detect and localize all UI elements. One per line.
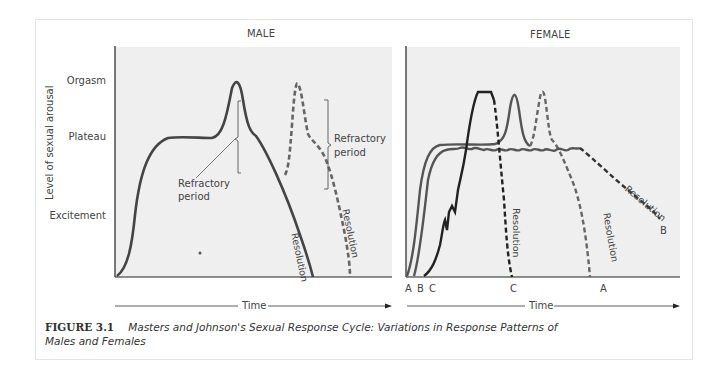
refractory-label-2-line2: period [334,146,386,160]
refractory-label-1: Refractory period [178,177,230,203]
refractory-label-2-line1: Refractory [334,132,386,146]
female-panel-bg [406,47,680,277]
y-axis-title: Level of sexual arousal [44,85,55,200]
y-level-excitement: Excitement [36,210,106,221]
stray-dot [199,252,202,255]
female-time-label: Time [529,300,553,311]
male-time-arrowhead [385,304,392,309]
refractory-label-1-line2: period [178,190,230,203]
y-level-orgasm: Orgasm [36,75,106,86]
y-level-plateau: Plateau [36,131,106,142]
figure-caption: FIGURE 3.1Masters and Johnson's Sexual R… [45,320,685,348]
female-resolution-c-label: Resolution [511,208,522,258]
curve-labels-start: A B C [405,283,437,294]
refractory-label-1-line1: Refractory [178,177,230,190]
male-panel-title: MALE [247,28,275,39]
curve-label-a: A [600,283,607,294]
female-panel-title: FEMALE [530,29,571,40]
curve-label-b: B [660,225,667,236]
male-time-label: Time [242,300,266,311]
figure-label: FIGURE 3.1 [45,321,114,333]
caption-line2: Males and Females [45,335,146,347]
female-time-arrowhead [673,304,680,309]
refractory-label-2: Refractory period [334,132,386,160]
response-cycle-diagram [0,0,726,374]
curve-label-c: C [510,283,517,294]
caption-line1: Masters and Johnson's Sexual Response Cy… [128,321,557,333]
